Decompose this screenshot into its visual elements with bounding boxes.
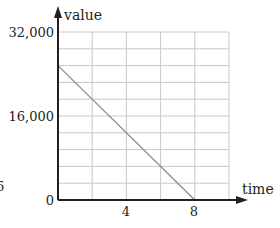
x-tick-8: 8	[190, 204, 198, 219]
stray-character: 6	[0, 179, 4, 194]
x-axis-title: time	[242, 181, 274, 197]
y-tick-32000: 32,000	[9, 25, 55, 40]
y-axis-title: value	[63, 7, 102, 23]
x-tick-4: 4	[122, 204, 130, 219]
y-axis-arrow-icon	[54, 6, 62, 18]
grid	[58, 32, 229, 200]
x-axis-arrow-icon	[236, 196, 248, 204]
y-tick-0: 0	[46, 193, 54, 208]
chart: value time 32,000 16,000 0 4 8 6	[0, 0, 280, 228]
y-tick-16000: 16,000	[9, 109, 55, 124]
